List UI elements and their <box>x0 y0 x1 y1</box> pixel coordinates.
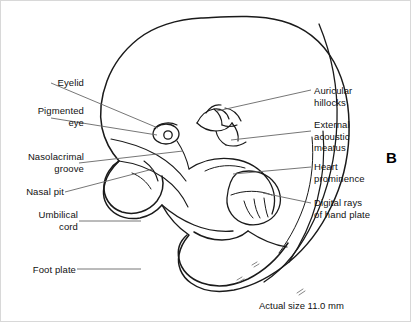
heart-prominence-inner <box>205 166 245 171</box>
hand-plate-crease <box>231 191 272 195</box>
hand-plate-group <box>227 171 281 225</box>
artist-signature <box>237 262 305 295</box>
label-auricular-hillocks: Auricular hillocks <box>314 85 406 108</box>
leader-digital-rays <box>263 193 311 203</box>
external-acoustic-meatus-curve <box>226 142 246 146</box>
panel-letter-b: B <box>386 149 397 166</box>
foot-plate-group <box>178 231 288 286</box>
face-contour <box>111 139 186 181</box>
actual-size-caption: Actual size 11.0 mm <box>259 300 344 311</box>
eye-outline <box>153 124 179 144</box>
label-nasal-pit: Nasal pit <box>9 186 64 198</box>
embryo-outline <box>101 17 350 292</box>
label-digital-rays-of-hand-plate: Digital rays of hand plate <box>314 197 409 220</box>
mandibular-arch <box>119 161 188 207</box>
leader-external-acoustic-meatus <box>231 131 311 140</box>
leader-auricular-hillocks <box>217 90 311 111</box>
leader-nasolacrimal-groove <box>79 151 183 163</box>
digital-ray-3 <box>264 198 268 217</box>
embryo-figure-panel: Eyelid Pigmented eye Nasolacrimal groove… <box>0 0 411 322</box>
label-nasolacrimal-groove: Nasolacrimal groove <box>5 151 84 174</box>
umbilical-cord-inner <box>132 173 151 189</box>
label-foot-plate: Foot plate <box>9 264 76 276</box>
digital-ray-1 <box>244 201 253 218</box>
eye-pupil <box>164 131 172 139</box>
lower-body-contour <box>162 205 233 231</box>
caudal-eminence-inner <box>279 137 313 253</box>
label-pigmented-eye: Pigmented eye <box>9 105 84 128</box>
digital-ray-2 <box>254 199 260 218</box>
label-eyelid: Eyelid <box>9 77 84 89</box>
label-umbilical-cord: Umbilical cord <box>9 209 78 232</box>
heart-prominence-curve <box>189 158 274 214</box>
nasolacrimal-groove-line <box>177 141 189 169</box>
